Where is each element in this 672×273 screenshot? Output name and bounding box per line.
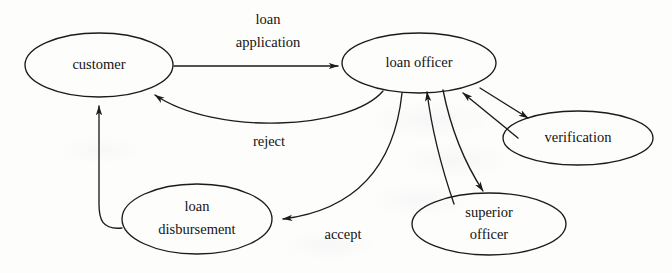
edge-disbursement-to-customer [99, 106, 122, 228]
node-loan-disbursement-label-line1: loan [185, 198, 211, 214]
edge-label-accept: accept [324, 226, 361, 242]
diagram-svg: customer loan officer verification super… [0, 0, 672, 273]
edge-label-loan-application-line2: application [236, 34, 301, 50]
node-loan-disbursement[interactable]: loan disbursement [122, 184, 272, 254]
node-superior-officer-shape[interactable] [412, 193, 566, 255]
node-superior-officer-label-line2: officer [470, 226, 509, 242]
edge-loan-officer-to-customer-reject [155, 91, 383, 123]
node-verification[interactable]: verification [503, 111, 653, 165]
edge-line-reject [155, 91, 383, 123]
node-loan-disbursement-shape[interactable] [122, 184, 272, 254]
edge-label-loan-application-line1: loan [256, 11, 282, 27]
diagram-canvas: customer loan officer verification super… [0, 0, 672, 273]
node-loan-officer-label: loan officer [386, 54, 453, 70]
node-superior-officer-label-line1: superior [465, 204, 513, 220]
node-customer-label: customer [72, 56, 125, 72]
edge-line-superior-to-officer [427, 92, 454, 204]
edge-line-disbursement-customer [99, 106, 122, 228]
node-loan-officer[interactable]: loan officer [342, 33, 496, 93]
node-superior-officer[interactable]: superior officer [412, 193, 566, 255]
node-customer[interactable]: customer [25, 33, 173, 97]
edge-line-verification-to-officer [463, 93, 518, 138]
edge-loan-officer-superior-officer [427, 90, 483, 204]
node-verification-label: verification [545, 129, 613, 145]
node-loan-disbursement-label-line2: disbursement [158, 221, 235, 237]
edge-loan-officer-verification [463, 88, 528, 138]
edge-line-accept [283, 93, 402, 219]
edge-loan-officer-to-disbursement [283, 93, 402, 219]
edge-label-reject: reject [253, 133, 285, 149]
